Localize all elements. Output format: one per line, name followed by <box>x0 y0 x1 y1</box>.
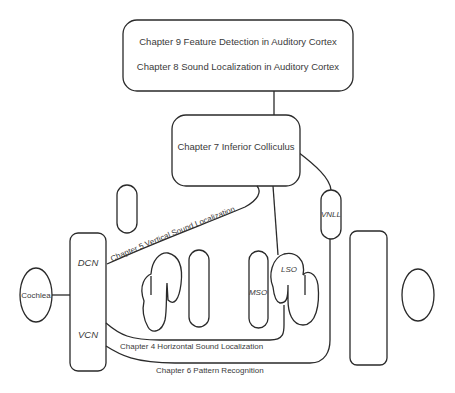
auditory-pathway-diagram: Chapter 9 Feature Detection in Auditory … <box>0 0 455 393</box>
inferior-colliculus-box: Chapter 7 Inferior Colliculus <box>172 115 300 186</box>
vnll-label: VNLL <box>321 210 341 219</box>
cochlea-label: Cochlea <box>21 291 51 300</box>
contralateral-nucleus <box>350 231 387 365</box>
mso-node: MSO <box>249 251 268 328</box>
chapter8-label: Chapter 8 Sound Localization in Auditory… <box>137 61 340 72</box>
auditory-cortex-box: Chapter 9 Feature Detection in Auditory … <box>123 20 353 91</box>
mso-label: MSO <box>249 288 267 297</box>
vcn-label: VCN <box>78 329 98 340</box>
ic-vnll-connector <box>298 152 331 190</box>
contralateral-cochlea <box>402 269 434 321</box>
left-tall-nucleus <box>189 250 209 327</box>
cochlea-node: Cochlea <box>20 268 52 322</box>
vnll-node: VNLL <box>321 190 341 239</box>
small-nucleus-pill <box>117 185 137 233</box>
left-lobed-nucleus <box>142 253 182 331</box>
chapter4-label: Chapter 4 Horizontal Sound Localization <box>120 342 263 351</box>
dcn-label: DCN <box>78 257 99 268</box>
cochlear-nucleus: DCN VCN <box>70 233 106 371</box>
lso-label: LSO <box>281 265 297 274</box>
ic-lso-connector <box>273 186 278 255</box>
chapter6-label: Chapter 6 Pattern Recognition <box>156 366 264 375</box>
ic-label: Chapter 7 Inferior Colliculus <box>177 141 294 152</box>
chapter9-label: Chapter 9 Feature Detection in Auditory … <box>139 36 337 47</box>
